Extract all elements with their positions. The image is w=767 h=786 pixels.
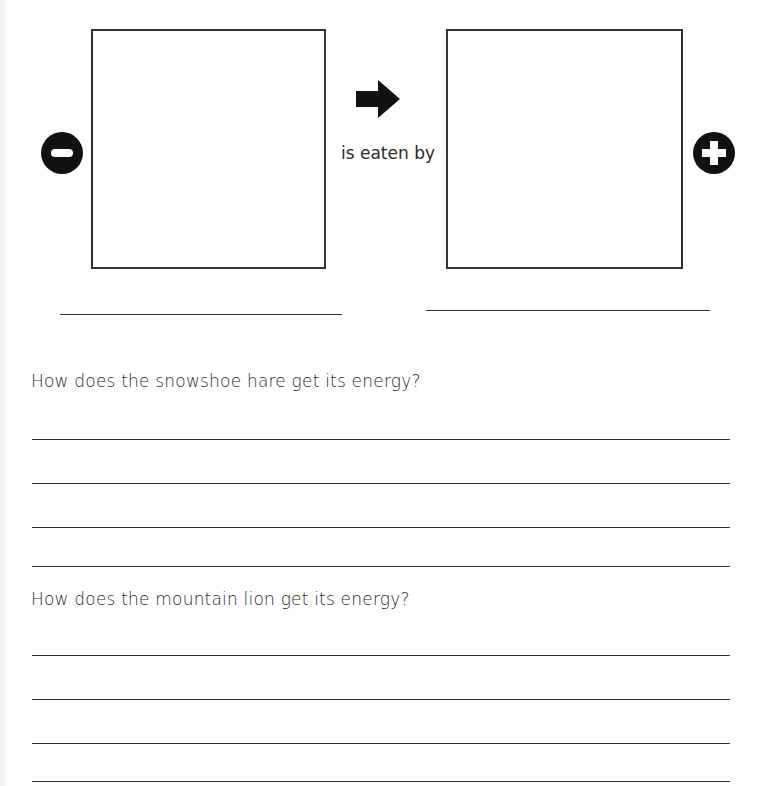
answer-line[interactable] (32, 743, 730, 744)
answer-line[interactable] (32, 781, 730, 782)
question-2: How does the mountain lion get its energ… (31, 589, 410, 609)
answer-line[interactable] (32, 699, 730, 700)
connector-label: is eaten by (341, 143, 435, 163)
left-label-line[interactable] (60, 314, 342, 315)
arrow-right-icon (356, 80, 400, 118)
plus-circle-icon (693, 132, 735, 174)
right-drawing-box[interactable] (446, 29, 683, 269)
answer-line[interactable] (32, 439, 730, 440)
page-edge (0, 0, 5, 786)
answer-line[interactable] (32, 527, 730, 528)
answer-line[interactable] (32, 566, 730, 567)
answer-line[interactable] (32, 655, 730, 656)
left-drawing-box[interactable] (91, 29, 326, 269)
question-1: How does the snowshoe hare get its energ… (31, 371, 421, 391)
answer-line[interactable] (32, 483, 730, 484)
minus-circle-icon (41, 132, 83, 174)
right-label-line[interactable] (426, 310, 710, 311)
